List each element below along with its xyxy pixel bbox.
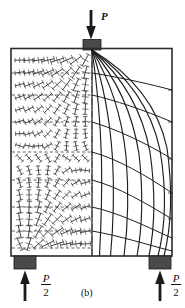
tension-trajectory-7 bbox=[92, 231, 172, 251]
compression-trajectories bbox=[92, 50, 171, 256]
reaction-arrow-left bbox=[20, 271, 30, 302]
fraction-bar bbox=[41, 284, 51, 285]
support-plate-left bbox=[14, 256, 36, 269]
figure-caption: (b) bbox=[81, 288, 93, 298]
reaction-right-denominator: 2 bbox=[170, 286, 182, 297]
compression-trajectory-8 bbox=[92, 50, 171, 256]
stress-trajectory-figure bbox=[0, 0, 185, 308]
reaction-left-numerator: P bbox=[40, 272, 52, 283]
reaction-left-label: P 2 bbox=[40, 272, 52, 297]
tension-trajectory-4 bbox=[92, 152, 172, 193]
reaction-left-denominator: 2 bbox=[40, 286, 52, 297]
reaction-arrow-right bbox=[155, 271, 165, 302]
reaction-right-label: P 2 bbox=[170, 272, 182, 297]
reaction-right-numerator: P bbox=[170, 272, 182, 283]
isostatic-dashed-lines bbox=[12, 73, 92, 248]
compression-trajectory-4 bbox=[92, 50, 128, 256]
applied-load-label: P bbox=[101, 11, 108, 22]
support-plate-right bbox=[149, 256, 171, 269]
tension-trajectory-5 bbox=[92, 180, 172, 219]
fraction-bar bbox=[171, 284, 181, 285]
applied-load-arrow bbox=[86, 10, 96, 40]
